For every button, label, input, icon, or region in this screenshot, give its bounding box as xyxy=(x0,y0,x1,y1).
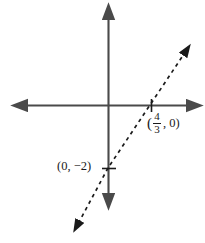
x-intercept-tail: , 0) xyxy=(163,117,180,130)
x-intercept-label: ( 4 3 , 0) xyxy=(147,111,180,135)
fraction-denominator: 3 xyxy=(153,124,161,136)
dashed-line-plot xyxy=(79,54,184,222)
x-intercept-open-paren: ( xyxy=(147,116,152,131)
graph-figure: (0, −2) ( 4 3 , 0) xyxy=(0,0,205,243)
y-intercept-label: (0, −2) xyxy=(57,160,91,173)
fraction-numerator: 4 xyxy=(153,111,161,123)
fraction-four-thirds: 4 3 xyxy=(153,111,161,135)
